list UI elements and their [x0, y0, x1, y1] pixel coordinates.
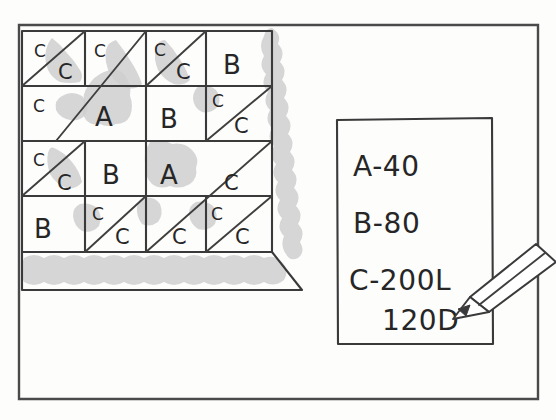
- cell-label-r1c1-upper: C: [34, 41, 46, 61]
- cell-label-r3c1-upper: C: [33, 150, 45, 170]
- pencil-pointer: [453, 244, 556, 319]
- cell-label-r2c4-lower: C: [234, 114, 249, 138]
- legend-item-a: A-40: [353, 150, 420, 183]
- cell-label-r1c3-lower: C: [176, 60, 191, 84]
- shade-right-band: [261, 28, 303, 259]
- cell-label-r1c1-lower: C: [58, 60, 73, 84]
- cell-label-r4c4-lower: C: [235, 225, 250, 249]
- cell-label-r3c3: A: [160, 160, 178, 190]
- sketch-scene: C C C C C B C A B C C C C B A C B C C C …: [0, 0, 556, 420]
- cell-label-r4c2-lower: C: [115, 225, 130, 249]
- cell-label-r4c3-lower: C: [172, 225, 187, 249]
- cell-label-r3c1-lower: C: [57, 171, 72, 195]
- cell-label-r1c2-upper: C: [94, 41, 106, 61]
- pencil-ridge: [479, 253, 545, 305]
- cell-label-r1c3-upper: C: [154, 40, 166, 60]
- cell-label-r2c2: A: [95, 102, 113, 132]
- legend-item-c: C-200L: [349, 264, 451, 297]
- legend-item-b: B-80: [353, 207, 420, 240]
- drawing-canvas: C C C C C B C A B C C C C B A C B C C C …: [0, 0, 556, 420]
- shade-bottom-band: [21, 255, 287, 285]
- cell-label-r2c4-upper: C: [212, 91, 224, 111]
- cell-label-r1c4: B: [223, 50, 241, 80]
- cell-label-r2c1-upper: C: [33, 96, 45, 116]
- legend-item-d: 120D: [382, 304, 459, 337]
- shade-r2c2-a-tail: [56, 93, 88, 120]
- cell-label-r2c3: B: [160, 104, 178, 134]
- cell-label-r3c4-lower: C: [224, 171, 239, 195]
- cell-label-r3c2: B: [102, 160, 120, 190]
- cell-label-r4c2-upper: C: [92, 204, 104, 224]
- cell-label-r4c4-upper: C: [211, 204, 223, 224]
- cell-label-r4c1: B: [34, 214, 52, 244]
